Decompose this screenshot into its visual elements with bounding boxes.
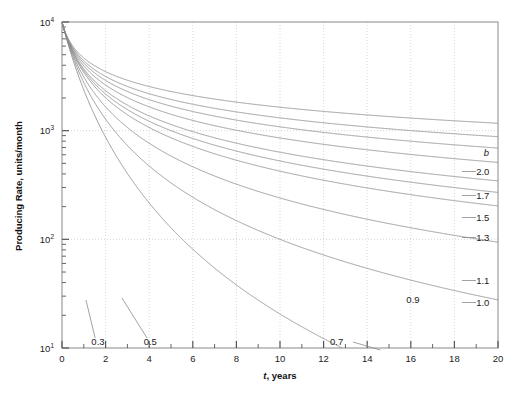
curve-label-0.7: 0.7 [330, 336, 343, 347]
x-tick-label: 20 [493, 353, 504, 364]
x-tick-label: 8 [234, 353, 239, 364]
y-axis-title: Producing Rate, units/month [13, 121, 24, 251]
x-tick-label: 2 [103, 353, 108, 364]
curve-label-1.1: 1.1 [476, 275, 489, 286]
curve-label-1.0: 1.0 [476, 297, 489, 308]
curve-label-2.0: 2.0 [476, 166, 489, 177]
curve-label-0.5: 0.5 [144, 336, 157, 347]
x-tick-label: 18 [449, 353, 460, 364]
x-tick-label: 6 [190, 353, 195, 364]
x-tick-label: 0 [59, 353, 64, 364]
hyperbolic-decline-chart: 02468101214161820101102103104 0.30.50.70… [0, 0, 522, 398]
x-axis-title: t, years [263, 370, 296, 381]
curve-label-1.7: 1.7 [476, 190, 489, 201]
curve-label-1.5: 1.5 [476, 212, 489, 223]
x-tick-label: 14 [362, 353, 373, 364]
chart-svg: 02468101214161820101102103104 0.30.50.70… [0, 0, 522, 398]
curve-label-0.3: 0.3 [91, 336, 104, 347]
x-tick-label: 10 [275, 353, 286, 364]
x-tick-label: 16 [406, 353, 417, 364]
legend-title-b: b [484, 147, 489, 158]
x-tick-label: 12 [318, 353, 329, 364]
curve-label-1.3: 1.3 [476, 232, 489, 243]
curve-label-0.9: 0.9 [406, 294, 419, 305]
x-tick-label: 4 [147, 353, 152, 364]
